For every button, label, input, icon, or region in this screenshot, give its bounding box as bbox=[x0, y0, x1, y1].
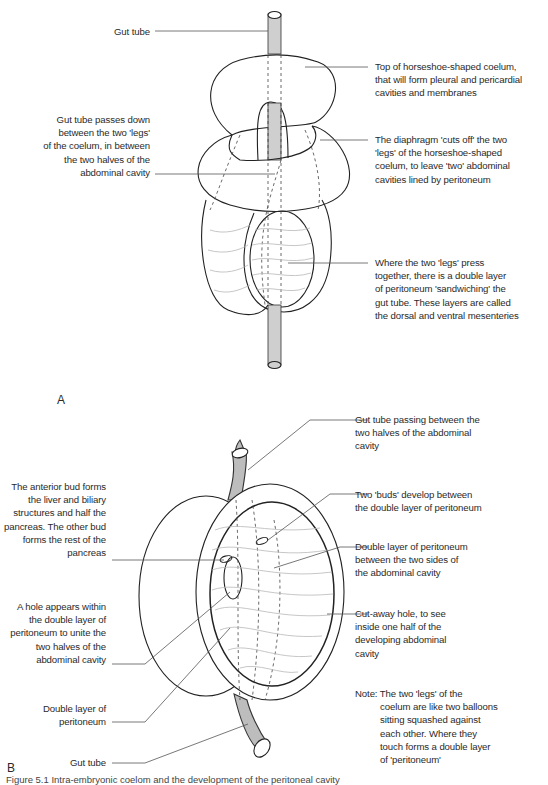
text-line: of the coelum, in between bbox=[43, 139, 150, 152]
text-line: Two 'buds' develop between bbox=[355, 488, 482, 501]
label-legs-press: Where the two 'legs' press together, the… bbox=[375, 256, 519, 322]
text-line: sitting squashed against bbox=[355, 713, 498, 726]
text-line: forms the rest of the bbox=[4, 533, 106, 546]
text-line: the double layer of peritoneum bbox=[355, 501, 482, 514]
text-line: the abdominal cavity bbox=[355, 566, 468, 579]
panel-label-a: A bbox=[57, 393, 65, 407]
text-line: pancreas bbox=[4, 546, 106, 559]
label-note: Note: The two 'legs' of the coelum are l… bbox=[355, 687, 498, 766]
text-line: the dorsal and ventral mesenteries bbox=[375, 309, 519, 322]
text-line: of 'peritoneum' bbox=[355, 753, 498, 766]
label-diaphragm: The diaphragm 'cuts off' the two 'legs' … bbox=[375, 133, 510, 186]
text-line: Double layer of peritoneum bbox=[355, 540, 468, 553]
text-line: Top of horseshoe-shaped coelum, bbox=[375, 60, 522, 73]
label-anterior-bud: The anterior bud forms the liver and bil… bbox=[4, 480, 106, 559]
text-line: Gut tube passes down bbox=[43, 113, 150, 126]
text-line: pancreas. The other bud bbox=[4, 520, 106, 533]
text-line: cavities lined by peritoneum bbox=[375, 173, 510, 186]
text-line: abdominal cavity bbox=[43, 166, 150, 179]
label-gut-passes: Gut tube passes down between the two 'le… bbox=[43, 113, 150, 179]
text-line: 'legs' of the horseshoe-shaped bbox=[375, 146, 510, 159]
text-line: peritoneum bbox=[43, 715, 106, 728]
text-line: between the two 'legs' bbox=[43, 126, 150, 139]
text-line: two halves of the bbox=[10, 640, 106, 653]
text-line: abdominal cavity bbox=[10, 653, 106, 666]
text-line: cavities and membranes bbox=[375, 86, 522, 99]
text-line: each other. Where they bbox=[355, 727, 498, 740]
label-cutaway: Cut-away hole, to see inside one half of… bbox=[355, 607, 446, 660]
text-line: cavity bbox=[355, 439, 480, 452]
text-line: two halves of the abdominal bbox=[355, 426, 480, 439]
label-gut-tube-b: Gut tube bbox=[70, 756, 106, 769]
text-line: The anterior bud forms bbox=[4, 480, 106, 493]
text-line: coelum, to leave 'two' abdominal bbox=[375, 159, 510, 172]
text-line: developing abdominal bbox=[355, 633, 446, 646]
panel-label-b: B bbox=[7, 761, 15, 775]
label-two-buds: Two 'buds' develop between the double la… bbox=[355, 488, 482, 514]
text-line: the double layer of bbox=[10, 613, 106, 626]
text-line: peritoneum to unite the bbox=[10, 626, 106, 639]
label-gut-tube-a: Gut tube bbox=[114, 25, 150, 38]
text-line: Cut-away hole, to see bbox=[355, 607, 446, 620]
text-line: The two 'legs' of the bbox=[380, 688, 463, 699]
text-line: that will form pleural and pericardial bbox=[375, 73, 522, 86]
text-line: together, there is a double layer bbox=[375, 269, 519, 282]
text-line: of peritoneum 'sandwiching' the bbox=[375, 282, 519, 295]
label-hole-appears: A hole appears within the double layer o… bbox=[10, 600, 106, 666]
text-line: gut tube. These layers are called bbox=[375, 296, 519, 309]
text-line: Double layer of bbox=[43, 702, 106, 715]
label-double-layer: Double layer of peritoneum bbox=[43, 702, 106, 728]
label-gut-passing: Gut tube passing between the two halves … bbox=[355, 413, 480, 453]
text-line: Where the two 'legs' press bbox=[375, 256, 519, 269]
text-line: touch forms a double layer bbox=[355, 740, 498, 753]
text-line: Gut tube passing between the bbox=[355, 413, 480, 426]
text-line: the liver and biliary bbox=[4, 493, 106, 506]
figure-caption: Figure 5.1 Intra-embryonic coelom and th… bbox=[6, 774, 340, 785]
label-top-coelum: Top of horseshoe-shaped coelum, that wil… bbox=[375, 60, 522, 100]
text-line: A hole appears within bbox=[10, 600, 106, 613]
label-double-layer-sides: Double layer of peritoneum between the t… bbox=[355, 540, 468, 580]
text-line: cavity bbox=[355, 647, 446, 660]
text-line: the two halves of the bbox=[43, 153, 150, 166]
text-line: coelum are like two balloons bbox=[355, 700, 498, 713]
text-line: inside one half of the bbox=[355, 620, 446, 633]
text-line: between the two sides of bbox=[355, 553, 468, 566]
text-line: structures and half the bbox=[4, 506, 106, 519]
note-prefix: Note: bbox=[355, 688, 377, 699]
text-line: The diaphragm 'cuts off' the two bbox=[375, 133, 510, 146]
